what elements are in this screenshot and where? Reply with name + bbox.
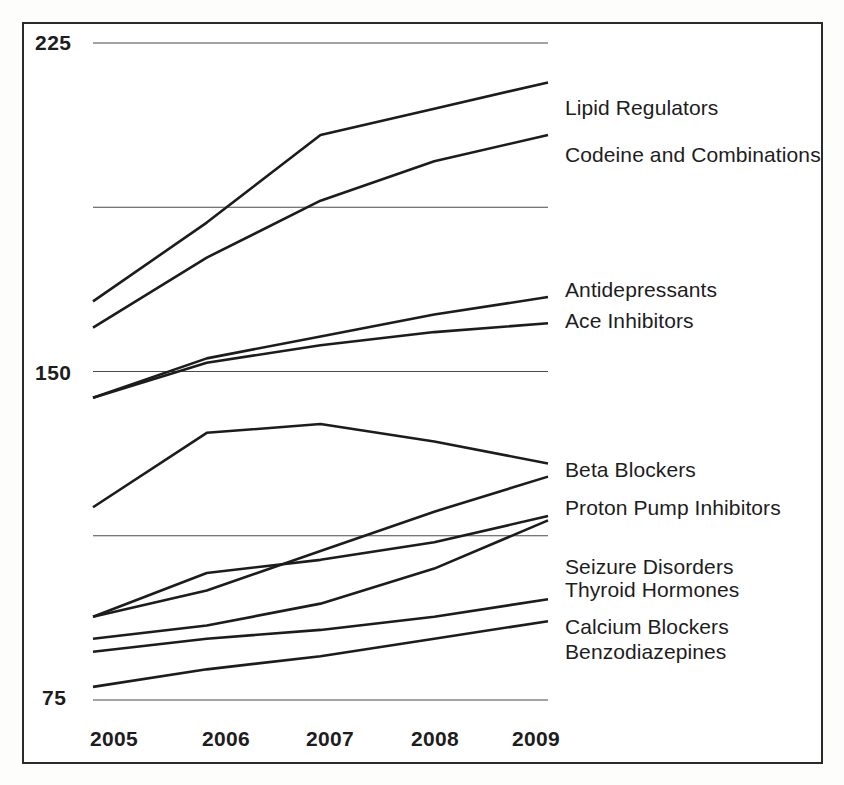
series-label-proton-pump-inhibitors: Proton Pump Inhibitors: [565, 496, 781, 520]
series-label-codeine-and-combinations: Codeine and Combinations: [565, 143, 821, 167]
series-label-thyroid-hormones: Thyroid Hormones: [565, 578, 739, 602]
y-tick-label-225: 225: [35, 31, 72, 55]
x-tick-label-2006: 2006: [186, 727, 266, 751]
x-tick-label-2008: 2008: [395, 727, 475, 751]
x-tick-label-2009: 2009: [496, 727, 576, 751]
series-label-seizure-disorders: Seizure Disorders: [565, 555, 734, 579]
series-label-ace-inhibitors: Ace Inhibitors: [565, 309, 694, 333]
chart-figure: 225 150 75 2005 2006 2007 2008 2009 Lipi…: [0, 0, 844, 785]
series-label-beta-blockers: Beta Blockers: [565, 458, 696, 482]
y-tick-label-75: 75: [42, 686, 66, 710]
series-label-antidepressants: Antidepressants: [565, 278, 717, 302]
x-tick-label-2005: 2005: [74, 727, 154, 751]
series-label-lipid-regulators: Lipid Regulators: [565, 96, 718, 120]
series-label-calcium-blockers: Calcium Blockers: [565, 615, 729, 639]
series-label-benzodiazepines: Benzodiazepines: [565, 640, 726, 664]
y-tick-label-150: 150: [35, 361, 72, 385]
x-tick-label-2007: 2007: [290, 727, 370, 751]
